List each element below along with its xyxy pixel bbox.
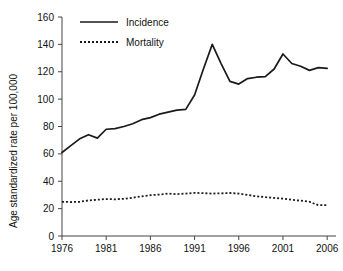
x-tick-label: 1991 bbox=[183, 243, 206, 254]
y-tick-label: 120 bbox=[37, 66, 54, 77]
legend: Incidence Mortality bbox=[80, 17, 169, 48]
y-tick-label: 0 bbox=[48, 231, 54, 242]
chart-figure: Age standardized rate per 100,000 020406… bbox=[0, 0, 343, 271]
x-tick-label: 2006 bbox=[316, 243, 339, 254]
y-tick-label: 60 bbox=[43, 148, 55, 159]
y-tick-group: 020406080100120140160 bbox=[37, 12, 62, 242]
x-tick-label: 1986 bbox=[139, 243, 162, 254]
series-line-mortality bbox=[62, 193, 327, 205]
y-axis-title: Age standardized rate per 100,000 bbox=[8, 74, 19, 228]
y-tick-label: 40 bbox=[43, 176, 55, 187]
x-tick-label: 1996 bbox=[228, 243, 251, 254]
legend-label-mortality: Mortality bbox=[126, 37, 164, 48]
x-tick-label: 2001 bbox=[272, 243, 295, 254]
y-axis-title-group: Age standardized rate per 100,000 bbox=[8, 74, 19, 228]
legend-label-incidence: Incidence bbox=[126, 17, 169, 28]
y-tick-label: 160 bbox=[37, 12, 54, 23]
y-tick-label: 20 bbox=[43, 203, 55, 214]
x-tick-group: 1976198119861991199620012006 bbox=[51, 236, 339, 254]
y-tick-label: 80 bbox=[43, 121, 55, 132]
y-tick-label: 140 bbox=[37, 39, 54, 50]
line-chart: Age standardized rate per 100,000 020406… bbox=[0, 0, 343, 271]
x-tick-label: 1976 bbox=[51, 243, 74, 254]
x-tick-label: 1981 bbox=[95, 243, 118, 254]
series-line-incidence bbox=[62, 44, 327, 152]
y-tick-label: 100 bbox=[37, 94, 54, 105]
